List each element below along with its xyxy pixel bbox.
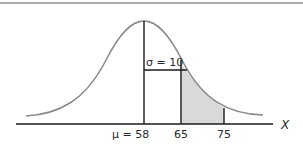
axis-label-x: X xyxy=(280,118,290,132)
mean-label: μ = 58 xyxy=(112,128,149,141)
normal-distribution-diagram: σ = 10 μ = 58 65 75 X xyxy=(0,0,303,161)
shaded-area xyxy=(181,64,224,124)
sigma-label: σ = 10 xyxy=(146,56,183,69)
tick-label-65: 65 xyxy=(174,128,188,141)
tick-label-75: 75 xyxy=(217,128,231,141)
